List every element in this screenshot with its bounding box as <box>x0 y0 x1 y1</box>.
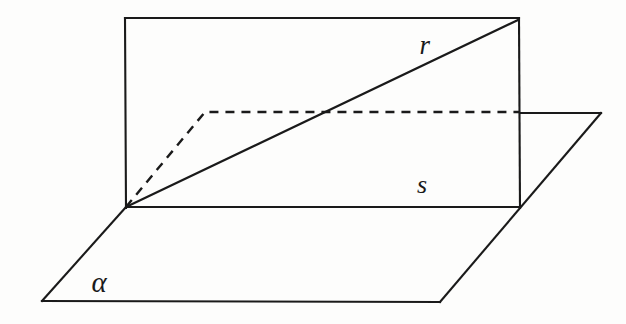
label-plane-alpha: α <box>92 268 107 297</box>
line-r-stroke <box>126 20 518 207</box>
rectangle-left-edge <box>125 18 126 208</box>
label-line-s: s <box>417 172 427 198</box>
dashed-projection-polyline <box>126 112 520 207</box>
geometry-figure: r s α <box>0 0 626 324</box>
plane-alpha-left-edge <box>42 207 126 301</box>
label-line-r: r <box>420 32 431 59</box>
plane-alpha-bottom-edge <box>42 301 440 302</box>
